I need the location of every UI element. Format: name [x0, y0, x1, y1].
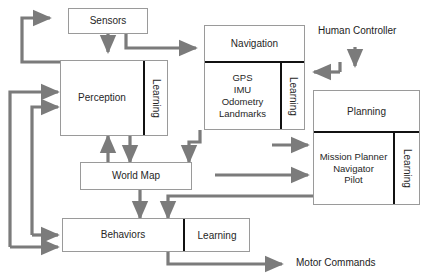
arrow-planning-to-behaviors	[168, 196, 313, 218]
node-planning[interactable]: Planning Mission Planner Navigator Pilot…	[313, 90, 420, 205]
arrow-sensors-to-navigation	[126, 34, 196, 48]
perception-learning-label: Learning	[151, 79, 162, 118]
navigation-body: GPS IMU Odometry Landmarks Learning	[205, 63, 304, 129]
node-sensors[interactable]: Sensors	[68, 8, 148, 34]
planning-item-navigator: Navigator	[333, 163, 374, 175]
node-behaviors[interactable]: Behaviors Learning	[62, 218, 250, 252]
node-navigation[interactable]: Navigation GPS IMU Odometry Landmarks Le…	[204, 25, 305, 130]
arrow-outer-feedback-to-perception	[10, 92, 58, 247]
arrow-behaviors-to-motor-commands	[168, 252, 282, 264]
navigation-items: GPS IMU Odometry Landmarks	[205, 63, 280, 129]
navigation-item-imu: IMU	[234, 84, 251, 96]
behaviors-learning-cell[interactable]: Learning	[183, 219, 249, 251]
planning-items: Mission Planner Navigator Pilot	[314, 133, 393, 204]
navigation-learning-cell[interactable]: Learning	[280, 63, 304, 129]
human-controller-label: Human Controller	[318, 25, 396, 36]
sensors-label: Sensors	[69, 9, 147, 33]
motor-commands-label: Motor Commands	[296, 257, 375, 268]
node-perception[interactable]: Perception Learning	[60, 60, 168, 136]
node-world-map[interactable]: World Map	[80, 162, 192, 190]
planning-item-pilot: Pilot	[344, 174, 362, 186]
architecture-diagram: Sensors Perception Learning Navigation G…	[0, 0, 428, 280]
planning-learning-label: Learning	[402, 149, 413, 188]
behaviors-label: Behaviors	[63, 219, 183, 251]
perception-learning-cell[interactable]: Learning	[143, 61, 167, 135]
planning-label: Planning	[314, 91, 419, 133]
behaviors-learning-label: Learning	[198, 230, 237, 241]
navigation-label: Navigation	[205, 26, 304, 63]
arrow-inner-feedback-to-perception	[32, 107, 58, 235]
world-map-label: World Map	[81, 163, 191, 189]
arrow-loop-to-sensors	[22, 18, 68, 62]
navigation-item-gps: GPS	[232, 72, 252, 84]
perception-label: Perception	[61, 61, 143, 135]
planning-item-mission-planner: Mission Planner	[320, 151, 388, 163]
navigation-item-landmarks: Landmarks	[219, 108, 266, 120]
planning-learning-cell[interactable]: Learning	[393, 133, 419, 204]
planning-body: Mission Planner Navigator Pilot Learning	[314, 133, 419, 204]
arrow-navigation-to-worldmap	[189, 130, 200, 162]
navigation-learning-label: Learning	[288, 77, 299, 116]
navigation-item-odometry: Odometry	[222, 96, 264, 108]
